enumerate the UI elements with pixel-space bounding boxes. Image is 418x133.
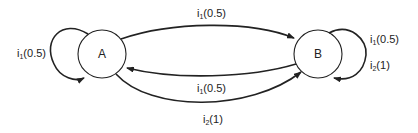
- edge-label-b-to-a: i1(0.5): [197, 83, 226, 95]
- node-b-label: B: [314, 48, 322, 60]
- edge-label-a-to-b-top: i1(0.5): [197, 8, 226, 20]
- node-a-label: A: [98, 48, 106, 60]
- edge-a-self-loop: [50, 29, 88, 80]
- edge-b-to-a-middle: [127, 64, 296, 76]
- edge-a-to-b-top: [121, 25, 294, 39]
- edge-label-a-self: i1(0.5): [17, 48, 46, 60]
- edge-label-b-self-2: i2(1): [370, 60, 390, 72]
- edge-label-b-self-1: i1(0.5): [370, 34, 399, 46]
- edge-label-a-to-b-bottom: i2(1): [203, 114, 223, 126]
